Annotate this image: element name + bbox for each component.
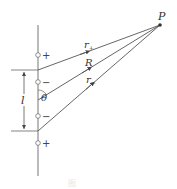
quadrupole-diagram: l + − − + θ r+ R r− P 图 [0,0,177,189]
label-R: R [84,57,93,68]
angle-label: θ [41,92,47,103]
charge-marker [36,114,41,119]
label-r-minus: r− [86,74,96,86]
ray-r-plus [38,25,160,70]
charge-sign: + [42,50,50,61]
ray-R [38,25,160,100]
charge-marker [36,53,41,58]
charge-sign: + [42,138,50,149]
charge-marker [36,80,41,85]
ray-r-plus-arrow [80,52,88,55]
figure-caption: 图 [68,179,76,188]
charge-marker [36,141,41,146]
point-P-label: P [157,10,166,23]
ray-R-arrow [82,68,90,73]
length-label: l [21,94,25,107]
charge-sign: − [42,77,50,88]
point-P [158,23,162,27]
label-r-plus: r+ [84,39,94,51]
charge-sign: − [42,111,50,122]
ray-r-minus [38,25,160,131]
